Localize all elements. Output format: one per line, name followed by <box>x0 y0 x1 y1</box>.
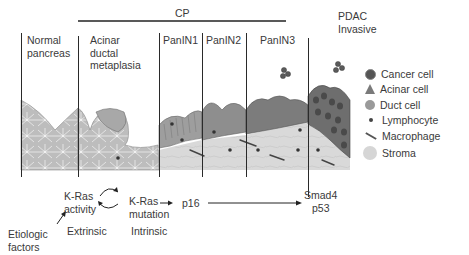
legend-lymphocyte: Lymphocyte <box>365 113 438 127</box>
legend-macrophage: Macrophage <box>365 129 440 143</box>
cancer-cell-icon <box>365 69 376 80</box>
macrophage-icon <box>365 132 376 140</box>
kras-mutation-label: K-Ras mutation <box>129 195 169 220</box>
legend-acinar-cell: Acinar cell <box>365 82 428 96</box>
divider-normal <box>21 33 22 177</box>
stage-acinar-label: Acinar ductal metaplasia <box>90 34 141 72</box>
intrinsic-label: Intrinsic <box>131 225 167 238</box>
stroma-icon <box>363 146 377 160</box>
divider-pdac <box>308 38 309 197</box>
lymphocyte-icon <box>369 118 373 122</box>
legend-cancer-cell: Cancer cell <box>365 67 434 81</box>
stage-pdac-label: PDAC Invasive <box>338 10 377 35</box>
smad4-p53-label: Smad4 p53 <box>304 189 337 214</box>
divider-panin2 <box>202 33 203 177</box>
extrinsic-label: Extrinsic <box>67 225 107 238</box>
duct-cell-icon <box>365 100 375 110</box>
cp-label: CP <box>175 7 190 20</box>
stage-panin2-label: PanIN2 <box>206 34 241 47</box>
stage-panin3-label: PanIN3 <box>260 34 295 47</box>
stage-normal-label: Normal pancreas <box>27 34 70 59</box>
divider-panin3 <box>246 33 247 177</box>
kras-activity-label: K-Ras activity <box>64 190 96 215</box>
legend-stroma: Stroma <box>365 146 416 160</box>
stage-panin1-label: PanIN1 <box>163 34 198 47</box>
legend-duct-cell: Duct cell <box>365 98 420 112</box>
divider-panin1 <box>159 33 160 177</box>
etiologic-factors-label: Etiologic factors <box>8 228 48 253</box>
divider-acinar <box>78 36 79 177</box>
acinar-cell-icon <box>365 84 375 94</box>
p16-label: p16 <box>182 197 200 210</box>
